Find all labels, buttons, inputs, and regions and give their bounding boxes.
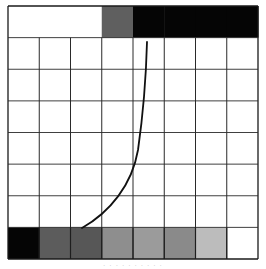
bottom-row-cell	[164, 227, 196, 259]
bottom-row-cell	[8, 227, 40, 259]
top-row-cell	[71, 6, 103, 38]
bottom-row-cell	[133, 227, 165, 259]
top-row-cell	[164, 6, 196, 38]
bottom-row-cell	[227, 227, 259, 259]
top-row-cell	[39, 6, 71, 38]
top-row-cell	[227, 6, 259, 38]
top-row-cell	[133, 6, 165, 38]
top-row-cells	[8, 6, 259, 38]
grayscale-grid-diagram	[0, 0, 266, 269]
caption: · · · · · · · · · ·	[0, 262, 266, 269]
top-row-cell	[102, 6, 134, 38]
top-row-cell	[196, 6, 228, 38]
top-row-cell	[8, 6, 40, 38]
bottom-row-cell	[102, 227, 134, 259]
bottom-row-cell	[39, 227, 71, 259]
bottom-row-cell	[71, 227, 103, 259]
response-curve	[82, 42, 147, 228]
bottom-row-cell	[196, 227, 228, 259]
grid-lines	[8, 6, 258, 259]
